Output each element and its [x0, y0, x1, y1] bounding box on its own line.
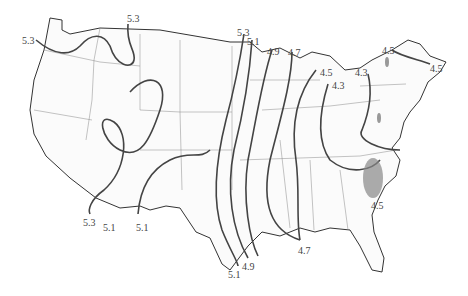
contour-label: 4.5	[320, 68, 333, 78]
contour-label: 4.5	[371, 201, 384, 211]
contour-label: 4.3	[332, 81, 345, 91]
contour-label: 5.3	[127, 14, 140, 24]
contour-label: 4.7	[298, 246, 311, 256]
contour-label: 5.1	[103, 223, 116, 233]
contour-label: 4.7	[288, 48, 301, 58]
contour-label: 5.1	[136, 223, 149, 233]
contour-label: 5.1	[228, 270, 241, 280]
contour-label: 5.3	[22, 36, 35, 46]
us-contour-map: 5.3 5.3 5.3 5.1 4.9 4.7 4.5 4.3 4.3 4.5 …	[0, 0, 468, 296]
contour-label: 4.3	[355, 68, 368, 78]
contour-label: 4.5	[430, 64, 443, 74]
contour-label: 5.1	[247, 37, 260, 47]
contour-label: 4.5	[382, 46, 395, 56]
contour-label: 5.3	[83, 218, 96, 228]
contour-label: 4.9	[267, 47, 280, 57]
map-drawing	[0, 0, 468, 296]
contour-label: 4.9	[242, 262, 255, 272]
shaded-region	[363, 158, 383, 198]
